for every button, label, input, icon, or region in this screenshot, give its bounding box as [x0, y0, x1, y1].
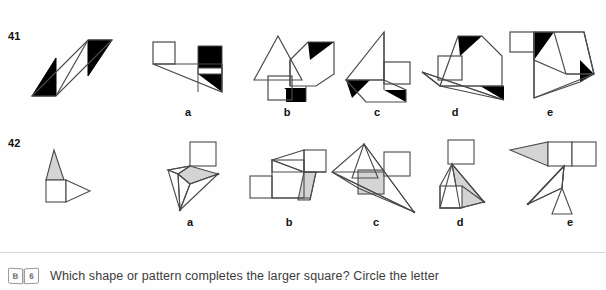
row-42-option-a-figure[interactable]	[158, 140, 236, 216]
row-41-option-a-letter[interactable]: a	[178, 106, 198, 118]
row-41-option-c-figure[interactable]	[340, 28, 426, 104]
question-41-figure	[26, 30, 118, 102]
row-41-option-e-figure[interactable]	[506, 26, 604, 106]
row-42-option-e-letter[interactable]: e	[560, 216, 580, 228]
row-42-option-b-letter[interactable]: b	[279, 216, 299, 228]
row-42-option-c-letter[interactable]: c	[366, 216, 386, 228]
row-41-option-e-letter[interactable]: e	[540, 106, 560, 118]
row-42-option-e-figure[interactable]	[508, 136, 602, 222]
row-42-option-d-letter[interactable]: d	[450, 216, 470, 228]
footer-instruction-bar: B 6 Which shape or pattern completes the…	[0, 262, 606, 290]
open-book-icon: B 6	[6, 267, 42, 286]
row-41-option-b-figure[interactable]	[250, 28, 340, 104]
row-42-option-c-figure[interactable]	[330, 140, 422, 220]
row-41-option-d-letter[interactable]: d	[445, 106, 465, 118]
book-left-page: B	[8, 267, 23, 284]
section-divider	[0, 252, 606, 253]
row-41-option-b-letter[interactable]: b	[277, 106, 297, 118]
book-right-page: 6	[24, 267, 39, 284]
row-41-option-a-figure[interactable]	[150, 34, 232, 102]
row-41-option-d-figure[interactable]	[420, 28, 516, 104]
question-42-figure	[32, 146, 102, 212]
row-42-option-b-figure[interactable]	[248, 146, 330, 216]
instruction-text: Which shape or pattern completes the lar…	[50, 269, 439, 283]
row-42-option-a-letter[interactable]: a	[180, 216, 200, 228]
question-number-41: 41	[8, 30, 21, 42]
question-number-42: 42	[8, 137, 21, 149]
worksheet-page: 41 a	[0, 0, 606, 290]
row-41-option-c-letter[interactable]: c	[367, 106, 387, 118]
row-42-option-d-figure[interactable]	[426, 136, 504, 218]
